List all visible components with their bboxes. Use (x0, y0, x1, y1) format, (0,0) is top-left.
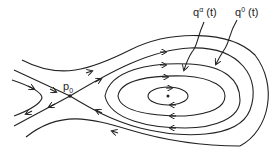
phase-portrait-diagram: p0 qα (t) q0 (t) (0, 0, 274, 160)
phase-portrait-svg (0, 0, 274, 160)
outer-orbit-bottom (26, 119, 240, 146)
center-point (167, 95, 170, 98)
orbit-zero-label: q0 (t) (235, 6, 258, 18)
saddle-label: p0 (63, 80, 73, 94)
separatrix-left-down (14, 70, 70, 96)
orbit-3 (105, 64, 240, 128)
orbit-alpha-label: qα (t) (193, 6, 217, 18)
separatrix-left-up (14, 96, 70, 126)
saddle-point (68, 94, 72, 98)
left-orbit (12, 80, 42, 116)
orbit-2 (118, 76, 225, 116)
leader-alpha (184, 22, 204, 70)
